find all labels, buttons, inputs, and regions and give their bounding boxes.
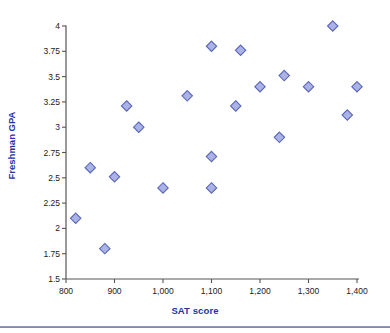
y-axis-title: Freshman GPA: [7, 111, 18, 179]
data-point-marker[interactable]: [231, 101, 241, 111]
scatter-plot-figure: Freshman GPA SAT score 1.51.7522.252.52.…: [0, 0, 390, 333]
x-axis-tick-label: 1,000: [152, 286, 173, 296]
data-point-marker[interactable]: [342, 110, 352, 120]
y-axis-tick-label: 3.75: [20, 46, 60, 56]
data-point-marker[interactable]: [206, 183, 216, 193]
data-point-marker[interactable]: [100, 243, 110, 253]
y-axis-tick-label: 1.75: [20, 249, 60, 259]
x-axis-tick-label: 900: [107, 286, 121, 296]
data-point-marker[interactable]: [206, 151, 216, 161]
x-axis-tick-label: 1,200: [249, 286, 270, 296]
y-axis-title-container: Freshman GPA: [0, 0, 24, 290]
y-axis-tick-label: 1.5: [20, 274, 60, 284]
y-axis-tick-label: 2: [20, 223, 60, 233]
data-point-marker[interactable]: [303, 82, 313, 92]
data-point-marker[interactable]: [182, 91, 192, 101]
data-point-marker[interactable]: [134, 122, 144, 132]
y-axis-tick-label: 3: [20, 122, 60, 132]
y-axis-tick-label: 2.75: [20, 148, 60, 158]
y-axis-tick-label: 2.25: [20, 198, 60, 208]
footer-divider: [0, 326, 390, 328]
data-point-marker[interactable]: [328, 21, 338, 31]
x-axis-tick-label: 1,300: [298, 286, 319, 296]
data-point-marker[interactable]: [255, 82, 265, 92]
x-axis-tick-label: 1,100: [201, 286, 222, 296]
y-axis-tick-label: 4: [20, 21, 60, 31]
y-axis-tick-label: 3.5: [20, 72, 60, 82]
x-axis-tick-label: 800: [59, 286, 73, 296]
y-axis-tick-label: 2.5: [20, 173, 60, 183]
y-axis-tick-label: 3.25: [20, 97, 60, 107]
data-point-marker[interactable]: [206, 41, 216, 51]
data-point-marker[interactable]: [121, 101, 131, 111]
data-point-marker[interactable]: [274, 132, 284, 142]
data-point-marker[interactable]: [85, 162, 95, 172]
data-point-marker[interactable]: [235, 45, 245, 55]
data-point-marker[interactable]: [158, 183, 168, 193]
data-point-marker[interactable]: [352, 82, 362, 92]
x-axis-title: SAT score: [0, 305, 390, 316]
data-point-marker[interactable]: [279, 70, 289, 80]
x-axis-tick-label: 1,400: [346, 286, 367, 296]
data-point-marker[interactable]: [109, 172, 119, 182]
data-point-marker[interactable]: [71, 213, 81, 223]
